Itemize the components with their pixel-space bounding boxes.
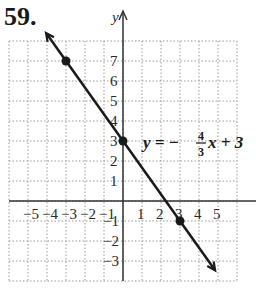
- y-tick-label: 1: [110, 173, 118, 189]
- y-tick-label: 6: [110, 73, 118, 89]
- equation-denominator: 3: [198, 145, 204, 159]
- y-tick-label: 7: [110, 53, 118, 69]
- y-tick-label: −1: [103, 213, 119, 229]
- y-tick-label: 2: [110, 153, 118, 169]
- equation-rhs: x + 3: [207, 133, 244, 152]
- plotted-point: [119, 137, 128, 146]
- x-tick-label: 2: [156, 206, 164, 222]
- x-tick-label: 5: [213, 206, 221, 222]
- x-tick-label: −2: [80, 206, 96, 222]
- y-axis-label: y: [110, 9, 119, 25]
- x-tick-label: 4: [194, 206, 202, 222]
- x-tick-label: −4: [42, 206, 58, 222]
- x-tick-label: −3: [61, 206, 77, 222]
- x-tick-label: 1: [137, 206, 145, 222]
- equation-lhs: y = −: [141, 133, 179, 152]
- line-graph: [46, 33, 215, 270]
- equation-numerator: 4: [198, 129, 204, 143]
- equation-label: y = − 4 3 x + 3: [141, 129, 244, 159]
- x-tick-label: −5: [23, 206, 39, 222]
- graph-line: [47, 34, 214, 269]
- y-tick-label: −3: [103, 253, 119, 269]
- coordinate-graph: −5−4−3−2−1123457654321−1−2−3 y y = − 4 3…: [0, 0, 256, 296]
- y-tick-label: −2: [103, 233, 119, 249]
- y-tick-label: 5: [110, 93, 118, 109]
- plotted-point: [62, 57, 71, 66]
- plotted-point: [176, 217, 185, 226]
- y-tick-label: 3: [110, 133, 118, 149]
